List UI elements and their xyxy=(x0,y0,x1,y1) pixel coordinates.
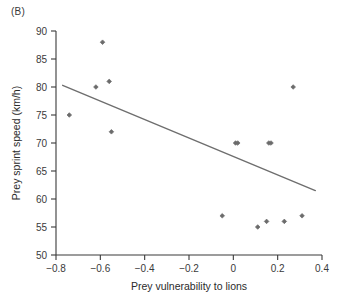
x-axis-title: Prey vulnerability to lions xyxy=(131,280,247,292)
x-tick-label--0.2: −0.2 xyxy=(179,263,199,274)
y-axis-ticks xyxy=(51,31,56,255)
x-tick-label-0: 0 xyxy=(231,263,237,274)
y-tick-label-75: 75 xyxy=(36,110,48,121)
trendline-segment xyxy=(63,85,316,190)
x-tick-label--0.8: −0.8 xyxy=(46,263,66,274)
y-axis-tick-labels: 505560657075808590 xyxy=(36,26,48,261)
y-tick-label-70: 70 xyxy=(36,138,48,149)
x-tick-label--0.6: −0.6 xyxy=(90,263,110,274)
y-tick-label-65: 65 xyxy=(36,166,48,177)
data-point xyxy=(264,219,269,224)
data-point xyxy=(94,85,99,90)
data-point xyxy=(255,225,260,230)
data-point xyxy=(300,214,305,219)
trendline xyxy=(63,85,316,190)
y-tick-label-85: 85 xyxy=(36,54,48,65)
x-axis: −0.8−0.6−0.4−0.200.20.4 Prey vulnerabili… xyxy=(46,255,329,292)
figure-panel-b: (B) 505560657075808590 Prey sprint speed… xyxy=(0,0,354,296)
data-point xyxy=(100,40,105,45)
y-tick-label-60: 60 xyxy=(36,194,48,205)
data-point xyxy=(67,113,72,118)
x-tick-label-0.4: 0.4 xyxy=(315,263,329,274)
y-tick-label-80: 80 xyxy=(36,82,48,93)
x-axis-tick-labels: −0.8−0.6−0.4−0.200.20.4 xyxy=(46,263,329,274)
data-points xyxy=(67,40,304,229)
x-tick-label--0.4: −0.4 xyxy=(135,263,155,274)
data-point xyxy=(291,85,296,90)
y-axis: 505560657075808590 Prey sprint speed (km… xyxy=(10,26,56,261)
y-tick-label-90: 90 xyxy=(36,26,48,37)
y-axis-title: Prey sprint speed (km/h) xyxy=(10,86,22,200)
x-axis-ticks xyxy=(56,255,322,260)
data-point xyxy=(282,219,287,224)
scatter-plot: 505560657075808590 Prey sprint speed (km… xyxy=(0,0,354,296)
data-point xyxy=(220,214,225,219)
y-tick-label-50: 50 xyxy=(36,250,48,261)
x-tick-label-0.2: 0.2 xyxy=(271,263,285,274)
data-point xyxy=(107,79,112,84)
data-point xyxy=(109,130,114,135)
y-tick-label-55: 55 xyxy=(36,222,48,233)
